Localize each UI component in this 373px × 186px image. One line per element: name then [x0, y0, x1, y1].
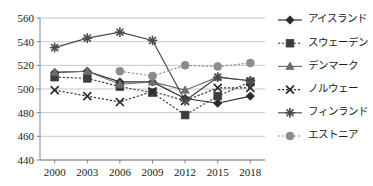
y-axis-label: 500	[18, 83, 35, 95]
data-point-cross	[116, 98, 124, 106]
marker-square	[181, 111, 189, 119]
data-point-diamond	[246, 92, 254, 100]
legend-item-5[interactable]: エストニア	[278, 129, 358, 140]
x-axis-label: 2012	[174, 166, 196, 178]
marker-circle	[181, 61, 189, 69]
y-axis-label: 480	[18, 107, 35, 119]
x-axis-label: 2000	[44, 166, 67, 178]
data-point-square	[286, 39, 294, 47]
marker-square	[286, 39, 294, 47]
legend-item-3[interactable]: ノルウェー	[278, 83, 358, 94]
legend-item-4[interactable]: フィンランド	[278, 106, 368, 117]
data-point-star	[245, 76, 255, 86]
y-axis-label: 540	[18, 36, 35, 48]
data-point-circle	[214, 63, 222, 71]
x-axis-label: 2009	[142, 166, 165, 178]
y-axis-label: 440	[18, 154, 35, 166]
marker-diamond	[286, 16, 294, 24]
data-point-star	[180, 96, 190, 106]
data-point-triangle	[286, 62, 294, 70]
y-axis-label: 560	[18, 12, 35, 24]
line-chart: 4404604805005205405602000200320062009201…	[0, 0, 373, 186]
x-axis-label: 2006	[109, 166, 132, 178]
x-axis-label: 2018	[239, 166, 262, 178]
data-point-diamond	[286, 16, 294, 24]
data-point-star	[82, 33, 92, 43]
marker-circle	[286, 132, 294, 140]
legend-label: エストニア	[308, 129, 358, 140]
marker-triangle	[286, 62, 294, 70]
data-point-square	[83, 74, 91, 82]
legend-label: ノルウェー	[308, 83, 358, 94]
marker-square	[214, 92, 222, 100]
legend-label: スウェーデン	[308, 36, 368, 48]
data-point-star	[148, 36, 158, 46]
data-point-cross	[83, 92, 91, 100]
data-point-circle	[286, 132, 294, 140]
data-point-star	[50, 43, 60, 53]
legend-item-0[interactable]: アイスランド	[278, 13, 367, 24]
data-point-circle	[116, 67, 124, 75]
chart-canvas: 4404604805005205405602000200320062009201…	[0, 0, 373, 186]
x-axis-label: 2015	[207, 166, 230, 178]
x-axis-label: 2003	[76, 166, 99, 178]
y-axis-label: 460	[18, 130, 35, 142]
data-point-circle	[246, 59, 254, 67]
data-point-star	[213, 72, 223, 82]
data-point-square	[181, 111, 189, 119]
legend-item-1[interactable]: スウェーデン	[278, 36, 368, 48]
data-point-square	[214, 92, 222, 100]
legend-label: デンマーク	[308, 59, 358, 71]
data-point-circle	[149, 72, 157, 80]
marker-circle	[214, 63, 222, 71]
marker-square	[83, 74, 91, 82]
legend-item-2[interactable]: デンマーク	[278, 59, 358, 71]
marker-circle	[149, 72, 157, 80]
marker-diamond	[246, 92, 254, 100]
y-axis-label: 520	[18, 59, 35, 71]
data-point-star	[285, 108, 295, 118]
data-point-cross	[51, 86, 59, 94]
marker-circle	[246, 59, 254, 67]
legend-label: アイスランド	[308, 13, 367, 24]
data-point-circle	[181, 61, 189, 69]
data-point-star	[115, 27, 125, 37]
marker-circle	[116, 67, 124, 75]
legend-label: フィンランド	[308, 106, 368, 117]
